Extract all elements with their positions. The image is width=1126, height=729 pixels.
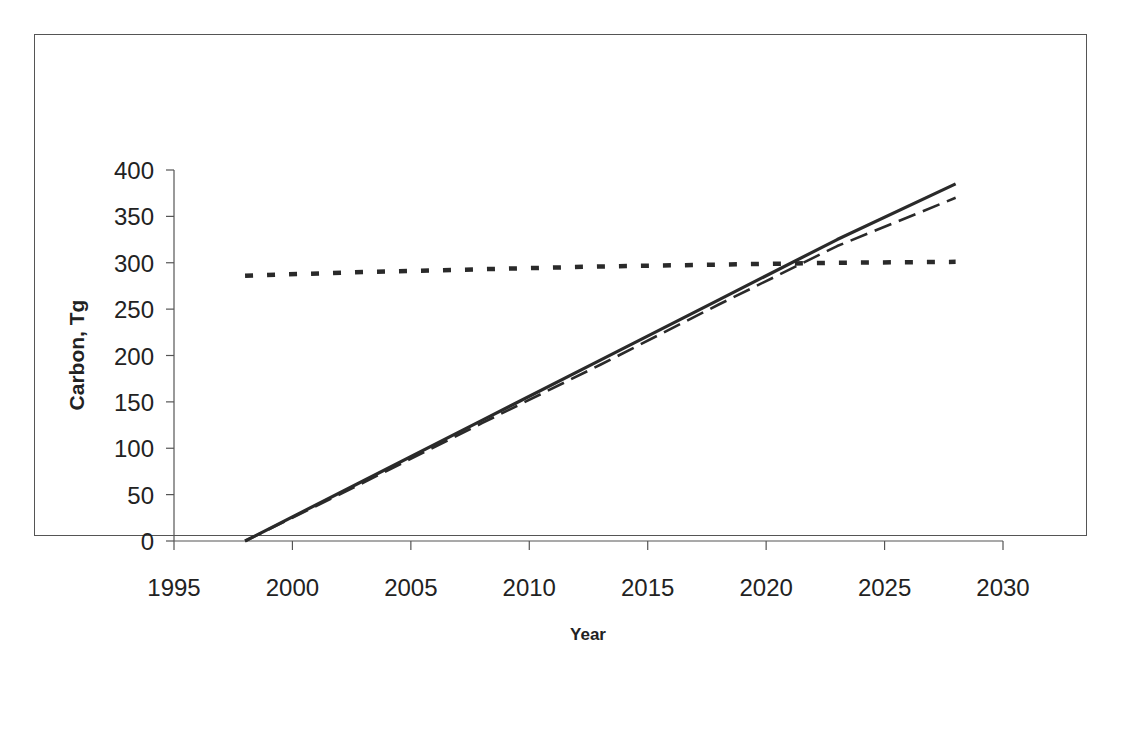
x-tick-label: 2015: [621, 574, 674, 601]
x-axis-title: Year: [570, 625, 606, 644]
x-tick-label: 2020: [739, 574, 792, 601]
y-tick-label: 200: [114, 343, 154, 370]
y-tick-label: 50: [127, 482, 154, 509]
y-tick-label: 150: [114, 389, 154, 416]
x-tick-label: 1995: [147, 574, 200, 601]
line-chart: 0501001502002503003504001995200020052010…: [0, 0, 1126, 729]
series-dotted-line: [245, 262, 956, 276]
x-tick-label: 2000: [266, 574, 319, 601]
series-dashed-line: [245, 198, 956, 541]
y-tick-label: 300: [114, 250, 154, 277]
series-lines: [245, 184, 956, 541]
x-tick-label: 2005: [384, 574, 437, 601]
x-tick-label: 2025: [858, 574, 911, 601]
y-tick-label: 350: [114, 203, 154, 230]
x-tick-label: 2010: [503, 574, 556, 601]
y-tick-label: 250: [114, 296, 154, 323]
y-tick-label: 400: [114, 157, 154, 184]
y-tick-label: 0: [141, 528, 154, 555]
y-tick-label: 100: [114, 435, 154, 462]
y-axis-title: Carbon, Tg: [65, 300, 88, 411]
x-tick-label: 2030: [976, 574, 1029, 601]
axes: [166, 170, 1003, 550]
